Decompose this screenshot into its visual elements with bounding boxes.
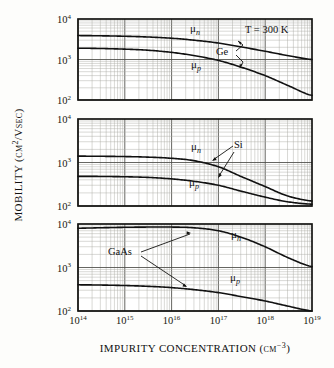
material-label-si: Si <box>234 139 243 150</box>
mobility-vs-impurity-figure: 1041031021041031021041031021014101510161… <box>0 0 334 368</box>
x-axis-title: IMPURITY CONCENTRATION (cm−3) <box>100 341 290 355</box>
temperature-annotation: T = 300 K <box>245 24 289 35</box>
material-label-ge: Ge <box>216 46 229 57</box>
material-label-gaas: GaAs <box>108 246 132 257</box>
panel-gaas <box>78 224 312 311</box>
figure-svg: 1041031021041031021041031021014101510161… <box>0 0 334 368</box>
y-axis-title: MOBILITY (cm2/Vsec) <box>11 108 25 221</box>
panel-si <box>78 119 312 206</box>
